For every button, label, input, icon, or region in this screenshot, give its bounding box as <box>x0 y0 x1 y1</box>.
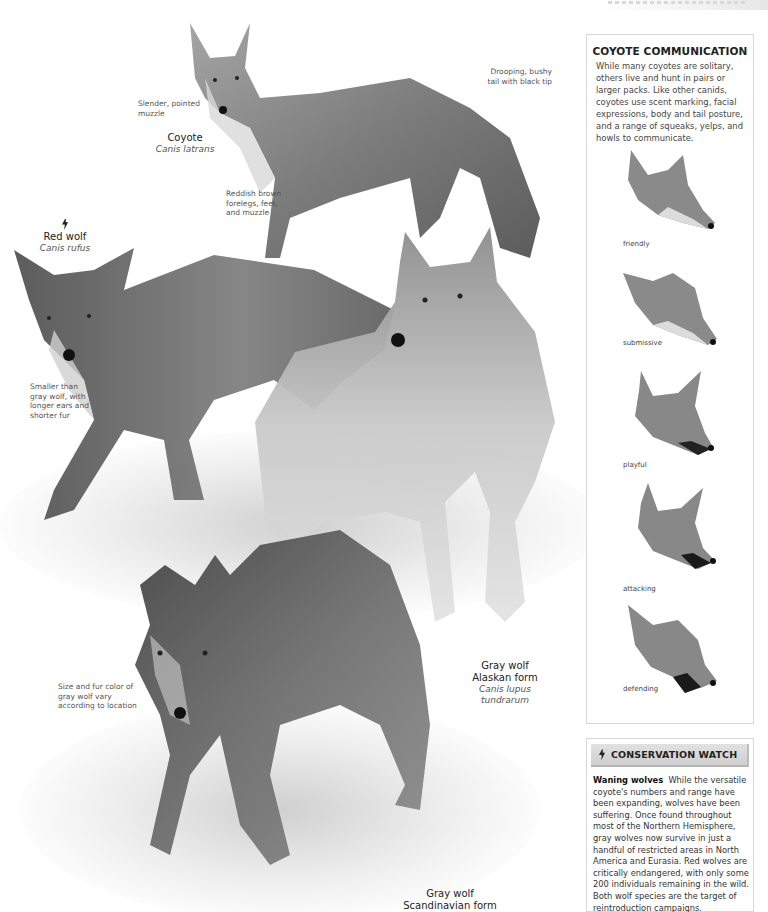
conservation-body: Waning wolves While the versatile coyote… <box>587 767 753 912</box>
coyote-head-submissive-illustration <box>623 263 719 351</box>
latin-name: Canis latrans <box>150 144 220 155</box>
species-label-gray-wolf-scandinavian: Gray wolf Scandinavian form <box>390 888 510 912</box>
latin-name: Canis rufus <box>35 243 95 254</box>
annotation-coyote-forelegs: Reddish brown forelegs, feet, and muzzle <box>226 189 288 218</box>
species-label-coyote: Coyote Canis latrans <box>150 132 220 155</box>
common-name: Red wolf <box>35 231 95 243</box>
coyote-head-defending-illustration <box>623 605 719 693</box>
latin-name: Canis lupus tundrarum <box>455 684 555 706</box>
species-label-red-wolf: Red wolf Canis rufus <box>35 219 95 254</box>
endangered-icon <box>61 219 69 230</box>
expression-label: playful <box>623 461 647 469</box>
box-title: COYOTE COMMUNICATION <box>587 45 753 57</box>
annotation-red-wolf-size: Smaller than gray wolf, with longer ears… <box>30 382 96 420</box>
box-body: While many coyotes are solitary, others … <box>587 57 753 144</box>
common-name: Gray wolf <box>390 888 510 900</box>
form-name: Alaskan form <box>455 672 555 684</box>
conservation-lead: Waning wolves <box>593 775 663 785</box>
form-name: Scandinavian form <box>390 900 510 912</box>
wolf-illustration: Slender, pointed muzzle Coyote Canis lat… <box>0 0 556 912</box>
gray-wolf-scandinavian-illustration <box>120 525 440 875</box>
conservation-header: CONSERVATION WATCH <box>591 744 749 767</box>
conservation-watch-box: CONSERVATION WATCH Waning wolves While t… <box>586 738 754 912</box>
conservation-text: While the versatile coyote's numbers and… <box>593 775 749 912</box>
expression-label: friendly <box>623 240 650 248</box>
common-name: Gray wolf <box>455 660 555 672</box>
annotation-coyote-muzzle: Slender, pointed muzzle <box>138 99 208 118</box>
expression-label: defending <box>623 685 658 693</box>
conservation-title: CONSERVATION WATCH <box>611 749 737 760</box>
coyote-communication-box: COYOTE COMMUNICATION While many coyotes … <box>586 34 754 724</box>
running-head-text-cropped <box>608 1 748 4</box>
coyote-head-playful-illustration <box>623 371 719 459</box>
running-head <box>596 0 768 10</box>
expression-label: submissive <box>623 339 662 347</box>
endangered-icon <box>598 749 606 761</box>
common-name: Coyote <box>150 132 220 144</box>
species-label-gray-wolf-alaskan: Gray wolf Alaskan form Canis lupus tundr… <box>455 660 555 706</box>
annotation-coyote-tail: Drooping, bushy tail with black tip <box>480 67 552 86</box>
annotation-gray-wolf-variation: Size and fur color of gray wolf vary acc… <box>58 682 138 711</box>
coyote-head-attacking-illustration <box>623 483 719 571</box>
expression-label: attacking <box>623 585 656 593</box>
coyote-head-friendly-illustration <box>623 145 719 233</box>
